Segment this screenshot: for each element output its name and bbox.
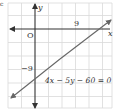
- x-tick-label: 9: [74, 19, 79, 28]
- corner-mark: c: [0, 0, 4, 7]
- y-axis-label: y: [37, 3, 43, 12]
- coordinate-graph: c y x O 9 −9 4x − 5y − 60 = 0: [0, 0, 117, 111]
- origin-label: O: [27, 31, 34, 40]
- equation-label: 4x − 5y − 60 = 0: [44, 76, 111, 85]
- x-axis-label: x: [108, 29, 113, 38]
- y-tick-label: −9: [21, 64, 33, 73]
- grid: [8, 3, 112, 108]
- graphed-line: [60, 20, 111, 59]
